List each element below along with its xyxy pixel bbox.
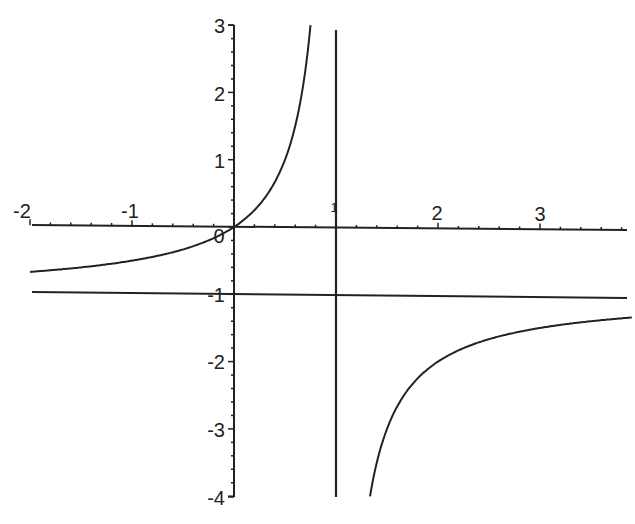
curve-right-branch bbox=[370, 318, 632, 497]
function-plot: -2 -1 0 1 2 3 3 2 1 -1 -2 -3 -4 bbox=[0, 0, 635, 524]
x-tick-label: -2 bbox=[13, 200, 31, 222]
y-tick-label: -4 bbox=[207, 487, 225, 509]
y-axis bbox=[228, 25, 234, 497]
x-tick-label: -1 bbox=[121, 200, 139, 222]
x-tick-label: 2 bbox=[431, 202, 442, 224]
x-tick-label: 1 bbox=[330, 200, 337, 215]
curve-left-branch bbox=[30, 25, 311, 272]
y-tick-label: 1 bbox=[214, 150, 225, 172]
x-tick-label: 3 bbox=[534, 203, 545, 225]
y-tick-label: -1 bbox=[207, 284, 225, 306]
x-tick-label: 0 bbox=[213, 225, 224, 247]
horizontal-asymptote bbox=[32, 292, 627, 298]
y-tick-label: 2 bbox=[214, 83, 225, 105]
y-tick-label: 3 bbox=[214, 15, 225, 37]
y-tick-label: -3 bbox=[207, 419, 225, 441]
y-tick-label: -2 bbox=[207, 351, 225, 373]
